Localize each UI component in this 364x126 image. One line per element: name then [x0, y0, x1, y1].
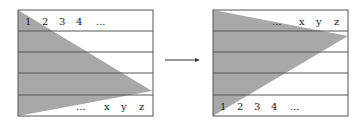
right-top-label-y: y [315, 16, 322, 27]
right-bottom-label-4: 4 [271, 101, 277, 112]
right-top-label-ellipsis: ... [272, 16, 282, 27]
right-bottom-label-1: 1 [220, 101, 226, 112]
left-panel: 1 2 3 4 ... ... x y z [18, 10, 153, 116]
left-top-label-2: 2 [42, 16, 48, 27]
left-bottom-label-z: z [139, 101, 144, 112]
left-bottom-label-x: x [104, 101, 110, 112]
diagram: 1 2 3 4 ... ... x y z ... x y z 1 2 3 4 … [0, 0, 364, 126]
right-top-label-z: z [334, 16, 339, 27]
left-top-label-1: 1 [25, 16, 31, 27]
left-bottom-label-ellipsis: ... [76, 101, 86, 112]
right-bottom-label-3: 3 [254, 101, 260, 112]
arrow-icon [165, 58, 200, 62]
right-bottom-label-2: 2 [237, 101, 243, 112]
left-top-label-3: 3 [59, 16, 65, 27]
right-panel: ... x y z 1 2 3 4 ... [213, 10, 348, 116]
left-top-label-ellipsis: ... [96, 16, 106, 27]
left-top-label-4: 4 [76, 16, 82, 27]
right-bottom-label-ellipsis: ... [290, 101, 300, 112]
left-bottom-label-y: y [120, 101, 127, 112]
right-top-label-x: x [299, 16, 305, 27]
